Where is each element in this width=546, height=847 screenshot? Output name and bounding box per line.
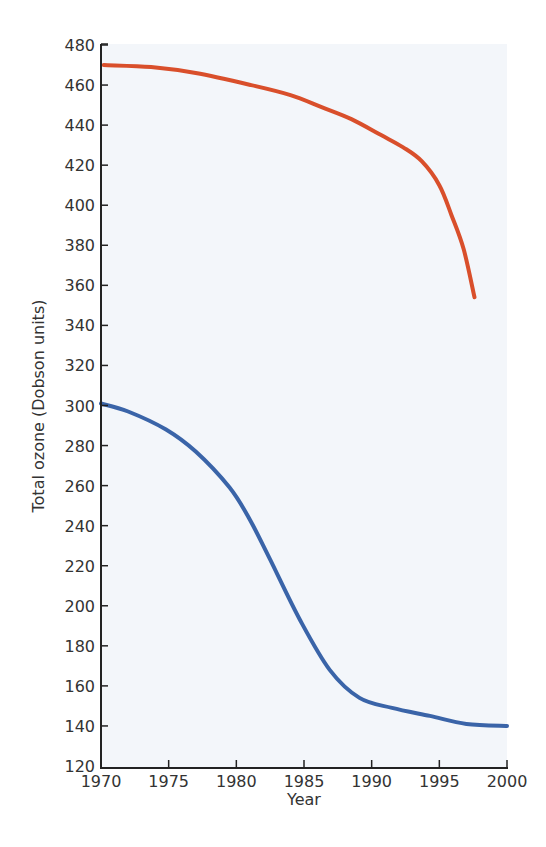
x-tick-label: 1985 [284,772,325,791]
x-tick-label: 1980 [216,772,257,791]
x-tick-label: 2000 [487,772,528,791]
ozone-line-chart: 1201401601802002202402602803003203403603… [0,0,546,847]
x-tick-label: 1990 [351,772,392,791]
y-tick-label: 260 [64,477,95,496]
y-axis-title: Total ozone (Dobson units) [29,300,48,514]
y-tick-label: 420 [64,156,95,175]
y-tick-label: 340 [64,316,95,335]
y-tick-label: 160 [64,677,95,696]
y-tick-label: 220 [64,557,95,576]
y-tick-label: 240 [64,517,95,536]
y-tick-label: 460 [64,76,95,95]
x-tick-label: 1970 [81,772,122,791]
x-axis-title: Year [286,790,321,809]
y-tick-label: 300 [64,397,95,416]
y-tick-label: 200 [64,597,95,616]
x-tick-label: 1995 [419,772,460,791]
x-tick-label: 1975 [148,772,189,791]
y-tick-label: 380 [64,236,95,255]
y-tick-label: 280 [64,437,95,456]
y-tick-label: 480 [64,36,95,55]
y-tick-label: 140 [64,717,95,736]
y-tick-label: 400 [64,196,95,215]
y-tick-label: 180 [64,637,95,656]
y-tick-label: 360 [64,276,95,295]
plot-area [101,44,507,768]
y-tick-label: 320 [64,356,95,375]
y-tick-label: 440 [64,116,95,135]
